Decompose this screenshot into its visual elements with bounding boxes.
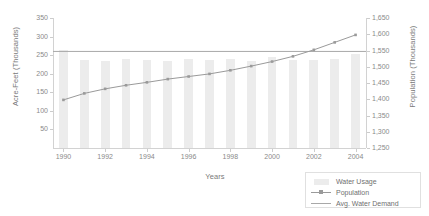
y-axis-right-tick-label: 1,250 <box>372 144 402 152</box>
x-axis-tickmark <box>105 149 106 152</box>
x-axis-tickmark <box>147 149 148 152</box>
line-series-layer <box>53 18 366 148</box>
population-marker <box>250 65 253 68</box>
y-axis-right-tickmark <box>367 18 370 19</box>
legend-item-label: Water Usage <box>336 177 377 186</box>
population-marker <box>271 60 274 63</box>
y-axis-right-tickmark <box>367 83 370 84</box>
y-axis-left-tick-label: 200 <box>22 70 48 78</box>
x-axis-tick-label: 2004 <box>336 153 376 161</box>
legend-item[interactable]: Population <box>310 187 416 197</box>
x-axis-tick-label: 1996 <box>169 153 209 161</box>
population-marker <box>83 92 86 95</box>
chart-container: Acre-Feet (Thousands) Population (Thousa… <box>0 0 429 216</box>
x-axis-tickmark <box>314 149 315 152</box>
population-line <box>63 35 355 100</box>
x-axis-tick-label: 2000 <box>252 153 292 161</box>
population-marker <box>313 49 316 52</box>
y-axis-right-tick-label: 1,550 <box>372 47 402 55</box>
x-axis-tick-label: 1992 <box>85 153 125 161</box>
x-axis-tick-label: 2002 <box>294 153 334 161</box>
population-marker <box>292 55 295 58</box>
legend-item-label: Population <box>336 188 369 197</box>
population-markers <box>62 34 357 102</box>
y-axis-right-tick-label: 1,300 <box>372 128 402 136</box>
y-axis-right-tick-label: 1,600 <box>372 30 402 38</box>
plot-area <box>53 18 366 148</box>
population-marker <box>125 84 128 87</box>
legend-line-marker-icon <box>310 188 332 197</box>
legend-item[interactable]: Water Usage <box>310 176 416 186</box>
y-axis-right-tickmark <box>367 99 370 100</box>
x-axis-tick-label: 1990 <box>43 153 83 161</box>
population-marker <box>187 75 190 78</box>
legend-bar-swatch-icon <box>310 177 332 186</box>
y-axis-right-tickmark <box>367 34 370 35</box>
y-axis-left-tick-label: 250 <box>22 51 48 59</box>
y-axis-left-tick-label: 300 <box>22 33 48 41</box>
y-axis-left-tick-label: 350 <box>22 14 48 22</box>
y-axis-right-tick-label: 1,350 <box>372 112 402 120</box>
population-marker <box>208 73 211 76</box>
x-axis-tickmark <box>272 149 273 152</box>
y-axis-right-tickmark <box>367 51 370 52</box>
population-marker <box>333 41 336 44</box>
population-marker <box>166 78 169 81</box>
x-axis-tickmark <box>230 149 231 152</box>
y-axis-title-right: Population (Thousands) <box>408 17 417 117</box>
y-axis-left-tick-label: 50 <box>22 125 48 133</box>
x-axis-tickmark <box>189 149 190 152</box>
x-axis-tickmark <box>356 149 357 152</box>
x-axis-tick-label: 1994 <box>127 153 167 161</box>
chart-legend: Water UsagePopulationAvg. Water Demand <box>305 172 421 208</box>
legend-item-label: Avg. Water Demand <box>336 199 399 208</box>
y-axis-right-tickmark <box>367 148 370 149</box>
y-axis-title-left: Acre-Feet (Thousands) <box>11 17 20 117</box>
legend-line-icon <box>310 199 332 208</box>
y-axis-left-tick-label: 150 <box>22 88 48 96</box>
population-marker <box>104 88 107 91</box>
y-axis-right-tick-label: 1,400 <box>372 95 402 103</box>
population-marker <box>62 99 65 102</box>
y-axis-right-tickmark <box>367 67 370 68</box>
y-axis-right-tick-label: 1,450 <box>372 79 402 87</box>
x-axis-tick-label: 1998 <box>210 153 250 161</box>
y-axis-left-tick-label: 100 <box>22 107 48 115</box>
legend-item[interactable]: Avg. Water Demand <box>310 198 416 208</box>
population-marker <box>146 81 149 84</box>
x-axis-tickmark <box>63 149 64 152</box>
y-axis-right-tickmark <box>367 116 370 117</box>
population-marker <box>354 34 357 37</box>
x-axis-title: Years <box>160 172 270 181</box>
y-axis-right-tickmark <box>367 132 370 133</box>
y-axis-right-tick-label: 1,500 <box>372 63 402 71</box>
y-axis-right-tick-label: 1,650 <box>372 14 402 22</box>
x-axis-line <box>53 148 366 149</box>
population-marker <box>229 69 232 72</box>
